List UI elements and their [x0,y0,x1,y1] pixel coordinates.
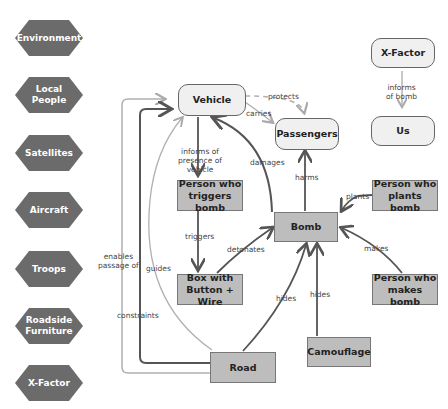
edge-label-damages: damages [250,158,285,167]
edge-label-harms: harms [295,173,319,182]
edge-label-enables-passage: enables passage of [98,252,139,270]
factor-local-people: Local People [14,76,84,114]
edge-label-informs-bomb: informs of bomb [386,83,417,101]
edge-label-carries: carries [246,109,271,118]
edge-label-triggers: triggers [185,232,214,241]
edge-label-informs-presence: informs of presence of vehicle [165,147,235,174]
node-person-plants-bomb: Person who plants bomb [372,180,438,211]
factor-environment: Environment [14,19,84,57]
edge-label-hides-road: hides [276,294,296,303]
node-person-triggers-bomb: Person who triggers bomb [177,180,243,211]
edge-label-constraints: constraints [117,311,159,320]
edge-label-makes: makes [364,244,389,253]
factor-troops: Troops [14,250,84,288]
node-us: Us [371,116,435,146]
edge-label-guides: guides [146,264,171,273]
node-box-button-wire: Box with Button + Wire [177,274,243,305]
node-camouflage: Camouflage [307,337,371,367]
node-passengers: Passengers [275,118,339,150]
factor-roadside-furniture: Roadside Furniture [14,307,84,345]
node-person-makes-bomb: Person who makes bomb [372,274,438,305]
edge-label-protects: protects [268,92,299,101]
factor-x-factor: X-Factor [14,364,84,402]
factor-satellites: Satellites [14,134,84,172]
node-road: Road [210,352,276,383]
edge-label-detonates: detonates [227,245,265,254]
edge-label-plants: plants [346,192,369,201]
node-vehicle: Vehicle [178,84,246,116]
node-bomb: Bomb [274,212,338,242]
edge-label-hides-camouflage: hides [310,290,330,299]
factor-aircraft: Aircraft [14,191,84,229]
node-x-factor: X-Factor [371,38,435,68]
